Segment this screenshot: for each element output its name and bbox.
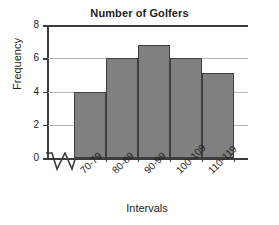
- x-tick-mark: [106, 158, 107, 162]
- y-tick-label: 4: [17, 87, 39, 97]
- y-tick-mark: [43, 158, 48, 160]
- y-tick-mark: [43, 92, 48, 94]
- y-tick-mark: [43, 58, 48, 60]
- x-tick-mark: [234, 158, 235, 162]
- y-tick-label: 6: [17, 53, 39, 63]
- y-tick-mark: [43, 125, 48, 127]
- gridline: [48, 25, 248, 27]
- x-axis-title: Intervals: [46, 202, 248, 214]
- bar: [74, 92, 106, 159]
- chart-title: Number of Golfers: [0, 7, 279, 19]
- x-tick-mark: [138, 158, 139, 162]
- x-tick-mark: [74, 158, 75, 162]
- y-tick-mark: [43, 25, 48, 27]
- x-tick-mark: [202, 158, 203, 162]
- bar: [138, 45, 170, 158]
- bar: [106, 58, 138, 158]
- y-tick-label: 8: [17, 20, 39, 30]
- histogram-figure: Number of Golfers Frequency Intervals 02…: [0, 0, 279, 225]
- y-tick-label: 2: [17, 120, 39, 130]
- x-tick-mark: [170, 158, 171, 162]
- y-tick-label: 0: [17, 153, 39, 163]
